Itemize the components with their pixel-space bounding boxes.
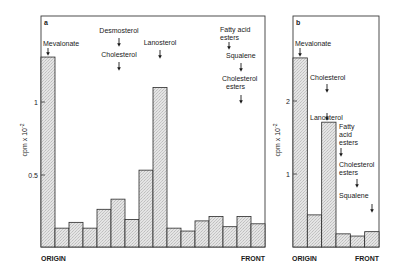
x-label-origin: ORIGIN (292, 255, 317, 262)
bar (139, 170, 153, 247)
bar (251, 224, 265, 247)
svg-text:cpm x 10-2: cpm x 10-2 (272, 123, 282, 156)
annotation-cholesterol-esters: Cholesterol (222, 75, 258, 82)
y-tick-label: 2 (286, 98, 290, 105)
x-label-front: FRONT (241, 255, 266, 262)
annotation-lanosterol: Lanosterol (144, 39, 177, 46)
annotation-mevalonate: Mevalonate (295, 40, 331, 47)
bar (223, 227, 237, 247)
annotation-fatty-acid-esters: Fatty acid (220, 26, 250, 34)
annotation-cholesterol-esters-2: esters (226, 83, 246, 90)
panel-b-letter: b (296, 19, 300, 26)
bar (365, 232, 379, 247)
annotation-squalene: Squalene (226, 52, 256, 60)
panel-b: b 2 1 cpm x 10-2 ORIGIN FRONT Mevalonate… (272, 16, 380, 262)
bar (69, 222, 83, 247)
annotation-desmosterol: Desmosterol (99, 27, 139, 34)
bar (125, 219, 139, 247)
annotation-mevalonate: Mevalonate (43, 40, 79, 47)
annotation-squalene: Squalene (339, 192, 369, 200)
annotation-cholesterol-esters: Cholesterol (339, 161, 375, 168)
y-tick-label: 1 (34, 99, 38, 106)
y-axis-label: cpm x 10-2 (19, 123, 29, 156)
svg-text:cpm x 10-2: cpm x 10-2 (19, 123, 29, 156)
bar (83, 228, 97, 247)
bar (293, 58, 307, 247)
figure: a 1 0.5 cpm x 10-2 ORIGIN FRONT Mevalona… (0, 0, 395, 277)
bar (195, 221, 209, 247)
annotation-cholesterol: Cholesterol (310, 74, 346, 81)
annotation-fatty-acid-esters: Fatty (339, 123, 355, 131)
bar (322, 122, 336, 247)
bar (55, 228, 69, 247)
x-label-origin: ORIGIN (41, 255, 66, 262)
panel-a-letter: a (44, 19, 48, 26)
annotation-cholesterol: Cholesterol (101, 51, 137, 58)
bar (111, 199, 125, 247)
annotation-fatty-acid-esters-2: acid (339, 131, 352, 138)
bar (336, 234, 350, 247)
bar (41, 57, 55, 247)
y-tick-label: 0.5 (28, 172, 38, 179)
bar (237, 217, 251, 247)
bar (97, 209, 111, 247)
annotation-cholesterol-esters-2: esters (339, 169, 359, 176)
bar (181, 231, 195, 247)
annotation-fatty-acid-esters-2: esters (220, 34, 240, 41)
bar (350, 236, 364, 247)
x-label-front: FRONT (355, 255, 380, 262)
panel-b-bars (293, 58, 379, 247)
y-tick-label: 1 (286, 171, 290, 178)
bar (167, 228, 181, 247)
annotation-fatty-acid-esters-3: esters (339, 139, 359, 146)
bar (307, 215, 321, 247)
bar (209, 217, 223, 247)
panel-a: a 1 0.5 cpm x 10-2 ORIGIN FRONT Mevalona… (19, 16, 266, 262)
y-axis-label: cpm x 10-2 (272, 123, 282, 156)
bar (153, 88, 167, 248)
